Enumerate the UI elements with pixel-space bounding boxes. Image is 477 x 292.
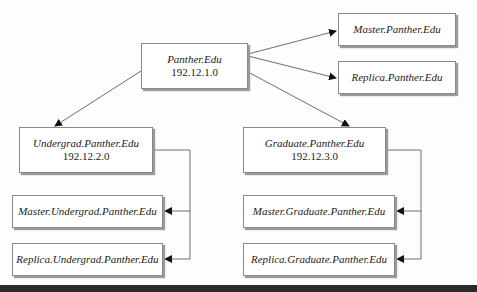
node-undergrad: Undergrad.Panther.Edu 192.12.2.0 xyxy=(19,127,153,173)
node-master-undergrad: Master.Undergrad.Panther.Edu xyxy=(12,195,163,228)
node-root-name: Panther.Edu xyxy=(167,53,222,66)
node-master-graduate-name: Master.Graduate.Panther.Edu xyxy=(253,205,385,218)
arrow-root-to-master xyxy=(248,31,336,54)
node-replica-panther-name: Replica.Panther.Edu xyxy=(351,71,442,84)
node-replica-undergrad-name: Replica.Undergrad.Panther.Edu xyxy=(16,253,158,266)
node-replica-undergrad: Replica.Undergrad.Panther.Edu xyxy=(12,243,163,276)
node-master-undergrad-name: Master.Undergrad.Panther.Edu xyxy=(18,205,157,218)
node-master-graduate: Master.Graduate.Panther.Edu xyxy=(243,195,395,228)
arrow-root-to-undergrad xyxy=(55,71,141,126)
arrow-root-to-graduate xyxy=(248,72,349,126)
node-root-ip: 192.12.1.0 xyxy=(171,66,218,79)
arrow-root-to-replica xyxy=(248,56,336,78)
node-replica-graduate: Replica.Graduate.Panther.Edu xyxy=(243,243,395,276)
node-master-panther: Master.Panther.Edu xyxy=(338,13,456,46)
node-graduate-ip: 192.12.3.0 xyxy=(291,150,338,163)
node-master-panther-name: Master.Panther.Edu xyxy=(353,23,440,36)
node-replica-panther: Replica.Panther.Edu xyxy=(338,61,456,94)
node-undergrad-ip: 192.12.2.0 xyxy=(63,150,110,163)
bottom-border-band xyxy=(0,285,477,292)
node-replica-graduate-name: Replica.Graduate.Panther.Edu xyxy=(251,253,387,266)
node-graduate: Graduate.Panther.Edu 192.12.3.0 xyxy=(243,127,386,173)
node-graduate-name: Graduate.Panther.Edu xyxy=(265,137,365,150)
node-root: Panther.Edu 192.12.1.0 xyxy=(141,43,248,89)
diagram-canvas: Panther.Edu 192.12.1.0 Master.Panther.Ed… xyxy=(0,0,477,292)
node-undergrad-name: Undergrad.Panther.Edu xyxy=(33,137,139,150)
